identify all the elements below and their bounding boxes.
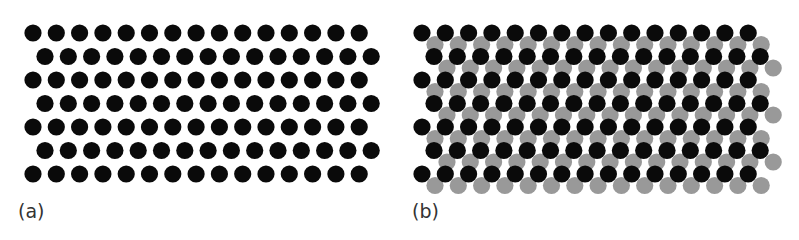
lattice-atom <box>716 165 733 182</box>
lattice-atom <box>682 95 699 112</box>
lattice-atom <box>223 48 240 65</box>
lattice-atom <box>425 142 442 159</box>
lattice-atom <box>658 95 675 112</box>
lattice-atom <box>211 165 228 182</box>
lattice-atom <box>211 24 228 41</box>
lattice-atom <box>682 48 699 65</box>
lattice-atom <box>577 118 594 135</box>
lattice-atom <box>234 24 251 41</box>
lattice-atom <box>413 71 430 88</box>
lattice-atom <box>36 48 53 65</box>
lattice-atom <box>106 48 123 65</box>
lattice-atom <box>577 165 594 182</box>
lattice-atom <box>460 71 477 88</box>
lattice-atom <box>130 95 147 112</box>
lattice-atom <box>740 118 757 135</box>
lattice-atom <box>658 48 675 65</box>
lattice-atom <box>589 95 606 112</box>
lattice-atom <box>623 24 640 41</box>
lattice-atom <box>530 71 547 88</box>
lattice-atom <box>530 24 547 41</box>
lattice-atom <box>495 95 512 112</box>
lattice-atom <box>363 48 380 65</box>
lattice-atom <box>200 48 217 65</box>
lattice-atom <box>519 142 536 159</box>
lattice-atom <box>460 118 477 135</box>
lattice-atom <box>24 118 41 135</box>
lattice-atom <box>188 118 205 135</box>
lattice-atom <box>234 165 251 182</box>
lattice-atom <box>176 95 193 112</box>
lattice-atom <box>740 71 757 88</box>
lattice-atom <box>200 142 217 159</box>
lattice-atom <box>483 71 500 88</box>
lattice-atom <box>269 142 286 159</box>
lattice-atom <box>553 118 570 135</box>
lattice-atom <box>141 24 158 41</box>
lattice-atom <box>530 165 547 182</box>
panel-a-black-circles <box>24 24 379 182</box>
lattice-atom <box>351 71 368 88</box>
lattice-atom <box>716 71 733 88</box>
lattice-atom <box>351 24 368 41</box>
lattice-atom <box>269 48 286 65</box>
lattice-atom <box>94 24 111 41</box>
lattice-atom <box>646 71 663 88</box>
lattice-atom <box>565 142 582 159</box>
lattice-atom <box>612 48 629 65</box>
lattice-atom <box>646 165 663 182</box>
lattice-atom <box>141 71 158 88</box>
lattice-atom <box>670 24 687 41</box>
lattice-atom <box>519 95 536 112</box>
lattice-atom <box>246 48 263 65</box>
lattice-atom <box>705 48 722 65</box>
lattice-atom <box>542 142 559 159</box>
lattice-atom <box>94 165 111 182</box>
lattice-atom <box>281 24 298 41</box>
lattice-atom <box>483 118 500 135</box>
lattice-atom <box>519 48 536 65</box>
lattice-atom <box>48 165 65 182</box>
lattice-atom <box>351 118 368 135</box>
lattice-atom <box>589 48 606 65</box>
lattice-atom <box>363 95 380 112</box>
lattice-atom <box>693 165 710 182</box>
lattice-atom <box>728 95 745 112</box>
lattice-atom <box>765 153 782 170</box>
lattice-atom <box>623 118 640 135</box>
lattice-atom <box>118 118 135 135</box>
lattice-atom <box>553 71 570 88</box>
lattice-atom <box>472 95 489 112</box>
lattice-atom <box>24 71 41 88</box>
lattice-atom <box>483 24 500 41</box>
lattice-atom <box>246 95 263 112</box>
lattice-atom <box>176 142 193 159</box>
lattice-atom <box>413 24 430 41</box>
lattice-atom <box>530 118 547 135</box>
lattice-atom <box>130 142 147 159</box>
lattice-atom <box>425 48 442 65</box>
lattice-atom <box>257 71 274 88</box>
lattice-atom <box>413 118 430 135</box>
lattice-atom <box>339 48 356 65</box>
lattice-atom <box>223 95 240 112</box>
lattice-atom <box>577 71 594 88</box>
lattice-atom <box>257 165 274 182</box>
lattice-atom <box>200 95 217 112</box>
lattice-atom <box>495 48 512 65</box>
lattice-atom <box>176 48 193 65</box>
lattice-atom <box>141 165 158 182</box>
lattice-atom <box>693 118 710 135</box>
lattice-atom <box>449 142 466 159</box>
lattice-atom <box>164 24 181 41</box>
lattice-atom <box>705 95 722 112</box>
lattice-atom <box>425 95 442 112</box>
lattice-atom <box>316 48 333 65</box>
lattice-atom <box>728 48 745 65</box>
lattice-atom <box>752 95 769 112</box>
lattice-atom <box>281 118 298 135</box>
lattice-atom <box>542 48 559 65</box>
lattice-atom <box>646 24 663 41</box>
lattice-atom <box>71 118 88 135</box>
lattice-atom <box>765 59 782 76</box>
